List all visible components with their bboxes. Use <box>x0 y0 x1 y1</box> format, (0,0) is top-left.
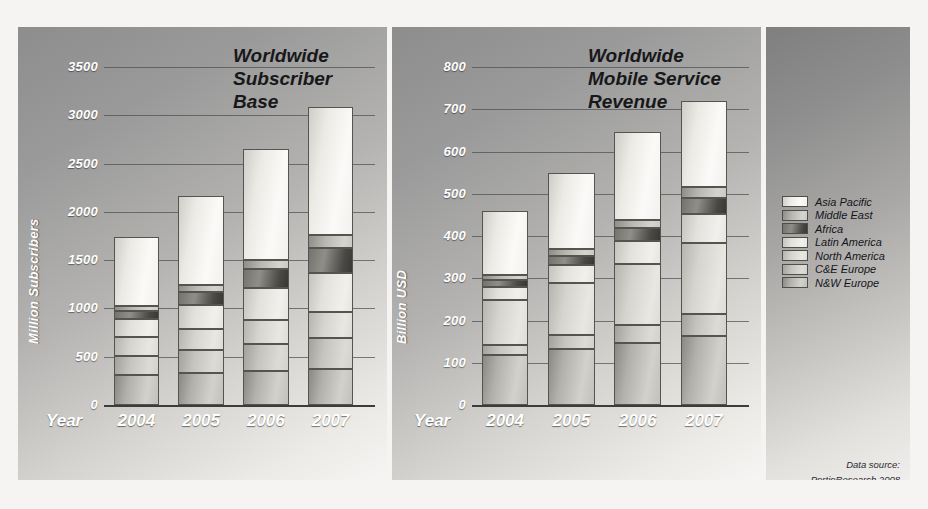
legend-swatch-icon <box>782 237 808 248</box>
bar-segment-c-e-europe-2005[interactable] <box>178 350 223 373</box>
bar-segment-north-america-2007[interactable] <box>308 312 353 339</box>
x-axis-tick-label: 2005 <box>168 411 233 431</box>
bar-segment-middle-east-2006[interactable] <box>243 260 288 270</box>
y-axis-tick-label: 2000 <box>40 204 98 219</box>
legend-item-north-america[interactable]: North America <box>782 249 885 262</box>
bar-segment-north-america-2006[interactable] <box>243 320 288 344</box>
bar-2004[interactable] <box>114 67 159 405</box>
legend-item-label: Africa <box>815 223 843 235</box>
bar-segment-n-w-europe-2006[interactable] <box>243 371 288 405</box>
x-axis-tick-label: 2004 <box>472 411 538 431</box>
bar-2007[interactable] <box>308 67 353 405</box>
bar-segment-africa-2007[interactable] <box>681 198 727 214</box>
bar-segment-asia-pacific-2006[interactable] <box>243 149 288 260</box>
bar-segment-asia-pacific-2005[interactable] <box>548 173 594 249</box>
bar-segment-africa-2004[interactable] <box>482 280 528 287</box>
x-axis-title: Year <box>46 411 82 431</box>
bar-segment-c-e-europe-2007[interactable] <box>308 338 353 369</box>
legend-item-label: Asia Pacific <box>815 196 872 208</box>
bar-segment-north-america-2007[interactable] <box>681 243 727 314</box>
bar-segment-latin-america-2005[interactable] <box>548 265 594 283</box>
bar-segment-middle-east-2005[interactable] <box>548 249 594 256</box>
bar-segment-c-e-europe-2006[interactable] <box>614 325 660 343</box>
legend-item-latin-america[interactable]: Latin America <box>782 236 882 249</box>
bar-segment-north-america-2005[interactable] <box>178 329 223 350</box>
x-axis-line <box>104 405 375 407</box>
bar-segment-c-e-europe-2006[interactable] <box>243 344 288 372</box>
legend-swatch-icon <box>782 277 808 288</box>
legend-item-label: C&E Europe <box>815 263 876 275</box>
legend-item-asia-pacific[interactable]: Asia Pacific <box>782 195 872 208</box>
y-axis-tick-label: 0 <box>408 397 466 412</box>
bar-segment-africa-2007[interactable] <box>308 248 353 274</box>
bar-segment-middle-east-2005[interactable] <box>178 285 223 292</box>
x-axis-tick-label: 2006 <box>604 411 670 431</box>
bar-segment-n-w-europe-2007[interactable] <box>681 336 727 405</box>
legend-swatch-icon <box>782 264 808 275</box>
bar-segment-n-w-europe-2004[interactable] <box>114 375 159 405</box>
bar-segment-middle-east-2007[interactable] <box>308 235 353 248</box>
bar-2005[interactable] <box>178 67 223 405</box>
bar-segment-latin-america-2004[interactable] <box>482 287 528 301</box>
legend-item-africa[interactable]: Africa <box>782 222 843 235</box>
bar-segment-africa-2006[interactable] <box>614 228 660 240</box>
bar-2005[interactable] <box>548 67 594 405</box>
legend-panel: Asia PacificMiddle EastAfricaLatin Ameri… <box>766 27 910 480</box>
legend-swatch-icon <box>782 196 808 207</box>
x-axis-tick-label: 2004 <box>104 411 169 431</box>
bar-segment-north-america-2004[interactable] <box>482 300 528 344</box>
bar-segment-c-e-europe-2004[interactable] <box>114 356 159 375</box>
bar-segment-latin-america-2005[interactable] <box>178 305 223 330</box>
y-axis-tick-label: 800 <box>408 59 466 74</box>
bar-2006[interactable] <box>243 67 288 405</box>
y-axis-tick-label: 600 <box>408 144 466 159</box>
bar-2007[interactable] <box>681 67 727 405</box>
legend-item-c-e-europe[interactable]: C&E Europe <box>782 263 876 276</box>
legend-item-n-w-europe[interactable]: N&W Europe <box>782 276 879 289</box>
bar-segment-latin-america-2007[interactable] <box>681 214 727 243</box>
bar-segment-middle-east-2006[interactable] <box>614 220 660 229</box>
bar-segment-middle-east-2004[interactable] <box>114 306 159 311</box>
bar-2006[interactable] <box>614 67 660 405</box>
bar-segment-n-w-europe-2006[interactable] <box>614 343 660 405</box>
bar-segment-north-america-2006[interactable] <box>614 264 660 325</box>
x-axis-line <box>472 405 749 407</box>
bar-segment-n-w-europe-2005[interactable] <box>548 349 594 405</box>
bar-segment-n-w-europe-2005[interactable] <box>178 373 223 405</box>
bar-segment-north-america-2004[interactable] <box>114 337 159 356</box>
bar-segment-c-e-europe-2004[interactable] <box>482 345 528 356</box>
bar-segment-latin-america-2004[interactable] <box>114 319 159 337</box>
bar-segment-asia-pacific-2004[interactable] <box>482 211 528 275</box>
bar-segment-africa-2005[interactable] <box>178 292 223 304</box>
bar-segment-latin-america-2006[interactable] <box>614 241 660 264</box>
bar-segment-africa-2004[interactable] <box>114 311 159 319</box>
x-axis-tick-label: 2007 <box>298 411 363 431</box>
bar-segment-middle-east-2004[interactable] <box>482 275 528 280</box>
y-axis-tick-label: 200 <box>408 313 466 328</box>
x-axis-tick-label: 2006 <box>233 411 298 431</box>
y-axis-tick-label: 500 <box>40 349 98 364</box>
y-axis-tick-label: 500 <box>408 186 466 201</box>
bar-segment-north-america-2005[interactable] <box>548 283 594 335</box>
legend-swatch-icon <box>782 250 808 261</box>
bar-segment-asia-pacific-2007[interactable] <box>681 101 727 187</box>
y-axis-tick-label: 100 <box>408 355 466 370</box>
bar-2004[interactable] <box>482 67 528 405</box>
bar-segment-asia-pacific-2006[interactable] <box>614 132 660 219</box>
legend-item-middle-east[interactable]: Middle East <box>782 209 872 222</box>
bar-segment-c-e-europe-2005[interactable] <box>548 335 594 349</box>
bar-segment-latin-america-2006[interactable] <box>243 288 288 320</box>
bar-segment-middle-east-2007[interactable] <box>681 187 727 198</box>
bar-segment-n-w-europe-2007[interactable] <box>308 369 353 405</box>
bar-segment-africa-2005[interactable] <box>548 256 594 265</box>
chart-title-right: Worldwide Mobile Service Revenue <box>588 44 721 113</box>
bar-segment-n-w-europe-2004[interactable] <box>482 355 528 405</box>
bar-segment-africa-2006[interactable] <box>243 269 288 287</box>
bar-segment-c-e-europe-2007[interactable] <box>681 314 727 336</box>
bar-segment-latin-america-2007[interactable] <box>308 273 353 312</box>
bar-segment-asia-pacific-2005[interactable] <box>178 196 223 285</box>
y-axis-tick-label: 3000 <box>40 107 98 122</box>
legend-item-label: North America <box>815 250 885 262</box>
bar-segment-asia-pacific-2007[interactable] <box>308 107 353 235</box>
bar-segment-asia-pacific-2004[interactable] <box>114 237 159 306</box>
